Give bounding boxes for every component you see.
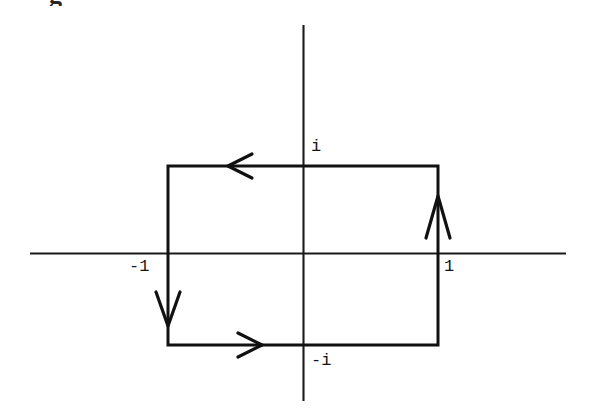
contour-diagram-figure: g i -i -1 1 [0, 0, 591, 412]
label-imaginary-unit-negative: -i [311, 352, 331, 369]
label-real-positive-one: 1 [444, 258, 454, 275]
diagram-canvas [0, 0, 591, 412]
label-imaginary-unit-positive: i [311, 138, 321, 155]
label-real-negative-one: -1 [129, 258, 149, 275]
